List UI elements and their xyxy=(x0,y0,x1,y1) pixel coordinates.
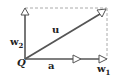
arrowhead-w1-icon xyxy=(99,55,107,63)
label-w2-base: w xyxy=(10,36,19,47)
label-w2: w2 xyxy=(10,37,23,49)
label-w2-sub: 2 xyxy=(19,41,24,50)
arrowhead-a-icon xyxy=(73,55,81,63)
label-u: u xyxy=(52,25,59,35)
vector-u-line xyxy=(25,14,100,59)
label-a: a xyxy=(48,61,54,71)
label-w1-base: w xyxy=(97,63,106,74)
label-w1-sub: 1 xyxy=(106,68,111,77)
label-Q: Q xyxy=(17,58,26,68)
label-w1: w1 xyxy=(97,64,110,76)
arrowhead-w2-icon xyxy=(21,8,29,15)
